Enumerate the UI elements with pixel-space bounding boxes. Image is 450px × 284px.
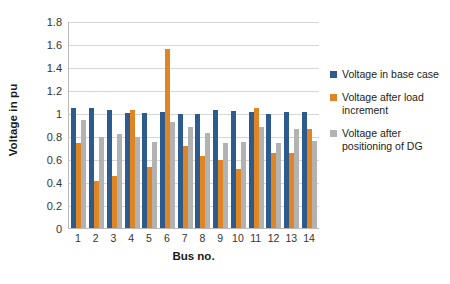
bar <box>294 129 299 228</box>
y-axis-tick-label: 0.2 <box>47 200 62 212</box>
legend-swatch-dg-icon <box>330 130 337 137</box>
x-axis-tick-label: 13 <box>282 232 300 244</box>
x-axis-tick-label: 14 <box>300 232 318 244</box>
bar <box>135 137 140 228</box>
legend-swatch-load-increment-icon <box>330 94 337 101</box>
x-axis-tick-label: 6 <box>158 232 176 244</box>
bar <box>259 127 264 228</box>
y-axis-tick-label: 0.6 <box>47 154 62 166</box>
x-axis-tick-label: 1 <box>69 232 87 244</box>
x-axis-tick-label: 3 <box>105 232 123 244</box>
legend-swatch-base-case-icon <box>330 71 337 78</box>
bar <box>99 137 104 228</box>
bar <box>117 134 122 228</box>
bar <box>223 143 228 228</box>
plot-area <box>68 22 319 229</box>
bar-group <box>105 22 123 228</box>
y-axis-tick-label: 1.4 <box>47 62 62 74</box>
x-axis-tick-label: 9 <box>211 232 229 244</box>
bar-group <box>283 22 301 228</box>
legend-item[interactable]: Voltage after positioning of DG <box>330 127 448 153</box>
bar-group <box>229 22 247 228</box>
x-axis-title: Bus no. <box>68 250 319 262</box>
bar-group <box>194 22 212 228</box>
y-axis-tick-label: 1 <box>56 108 62 120</box>
bar-group <box>141 22 159 228</box>
y-axis-tick-label: 1.6 <box>47 39 62 51</box>
x-axis-tick-label: 5 <box>140 232 158 244</box>
bar-group <box>300 22 318 228</box>
x-axis-tick-label: 4 <box>122 232 140 244</box>
y-axis-tick-label: 0 <box>56 223 62 235</box>
x-axis-tick-label: 7 <box>176 232 194 244</box>
y-axis-tick-label: 0.4 <box>47 177 62 189</box>
bar-group <box>159 22 177 228</box>
x-axis-tick-label: 2 <box>87 232 105 244</box>
chart-legend: Voltage in base caseVoltage after load i… <box>330 68 448 163</box>
y-axis-tick-label: 0.8 <box>47 131 62 143</box>
x-axis-tick-label: 8 <box>193 232 211 244</box>
bar <box>188 127 193 228</box>
x-axis-tick-label: 11 <box>247 232 265 244</box>
legend-item-label: Voltage in base case <box>342 68 439 81</box>
x-axis-tick-labels: 1234567891011121314 <box>68 232 319 244</box>
y-axis-title-text: Voltage in pu <box>7 84 19 157</box>
bar <box>170 122 175 228</box>
y-axis-tick-labels: 00.20.40.60.811.21.41.61.8 <box>26 14 66 230</box>
bar <box>152 142 157 228</box>
legend-item-label: Voltage after positioning of DG <box>342 127 448 153</box>
bar-group <box>176 22 194 228</box>
x-axis-tick-label: 10 <box>229 232 247 244</box>
bar-group <box>265 22 283 228</box>
legend-item[interactable]: Voltage after load increment <box>330 91 448 117</box>
bar-group <box>212 22 230 228</box>
bar-chart: Voltage in pu 00.20.40.60.811.21.41.61.8… <box>0 0 450 284</box>
y-axis-title: Voltage in pu <box>0 0 26 240</box>
bar-group <box>70 22 88 228</box>
legend-item[interactable]: Voltage in base case <box>330 68 448 81</box>
bar <box>205 133 210 228</box>
bar-groups <box>69 22 319 228</box>
bar-group <box>88 22 106 228</box>
y-axis-tick-label: 1.2 <box>47 85 62 97</box>
bar <box>241 142 246 228</box>
bar-group <box>123 22 141 228</box>
bar <box>276 143 281 228</box>
legend-item-label: Voltage after load increment <box>342 91 448 117</box>
bar-group <box>247 22 265 228</box>
bar <box>81 120 86 228</box>
bar <box>312 141 317 228</box>
y-axis-tick-label: 1.8 <box>47 16 62 28</box>
x-axis-tick-label: 12 <box>265 232 283 244</box>
